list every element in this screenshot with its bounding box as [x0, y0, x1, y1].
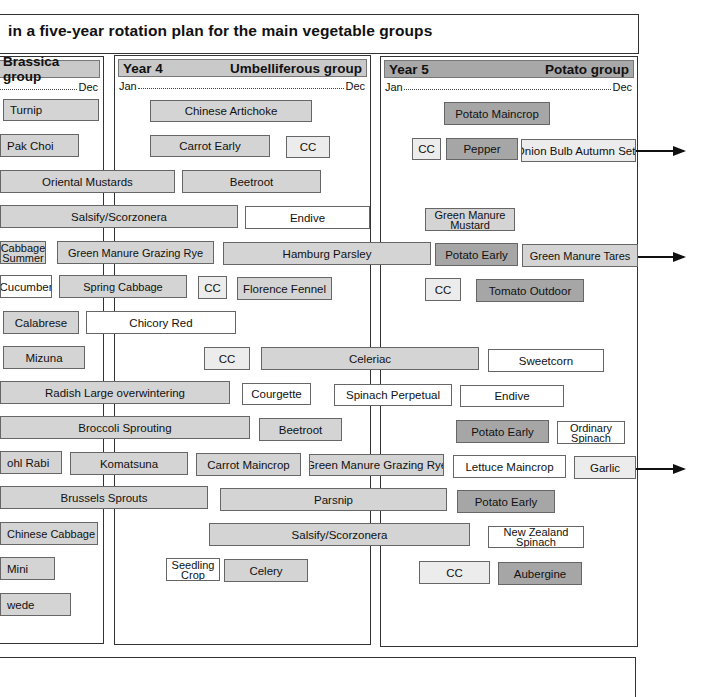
- month-axis: Dec: [0, 81, 98, 93]
- crop-label: Green Manure Tares: [530, 251, 631, 261]
- crop-bar: Potato Early: [457, 490, 555, 513]
- crop-label: Turnip: [10, 105, 42, 115]
- month-end: Dec: [612, 81, 632, 93]
- crop-bar: Endive: [460, 385, 564, 407]
- crop-label: Beetroot: [279, 425, 322, 435]
- crop-label: Florence Fennel: [243, 284, 326, 294]
- crop-bar: Beetroot: [182, 170, 321, 193]
- crop-label: CC: [446, 568, 463, 578]
- crop-label: Mini: [7, 564, 28, 574]
- crop-bar: Chinese Artichoke: [150, 100, 312, 122]
- panel-header: Year 4Umbelliferous group: [118, 59, 367, 77]
- crop-bar: Ordinary Spinach: [557, 421, 625, 444]
- crop-label: Pepper: [463, 144, 500, 154]
- crop-label: CC: [418, 144, 435, 154]
- crop-label: CC: [435, 285, 452, 295]
- crop-bar: Seedling Crop: [166, 558, 220, 581]
- arrow-right-icon: [638, 256, 684, 258]
- crop-bar: Tomato Outdoor: [476, 279, 584, 302]
- crop-label: Celery: [249, 566, 282, 576]
- panel-year: Year 5: [389, 62, 429, 77]
- month-axis: JanDec: [119, 80, 365, 92]
- crop-bar: Pepper: [446, 138, 518, 160]
- crop-bar: Oriental Mustards: [0, 170, 175, 193]
- panel-group: Brassica group: [3, 54, 95, 84]
- month-end: Dec: [345, 80, 365, 92]
- crop-label: Mizuna: [25, 353, 62, 363]
- crop-label: Beetroot: [230, 177, 273, 187]
- crop-label: ohl Rabi: [7, 458, 49, 468]
- crop-bar: Beetroot: [259, 418, 342, 441]
- crop-label: Tomato Outdoor: [489, 286, 571, 296]
- month-end: Dec: [78, 81, 98, 93]
- month-start: Jan: [385, 81, 403, 93]
- crop-bar: CC: [198, 276, 227, 299]
- crop-label: Carrot Maincrop: [207, 460, 289, 470]
- crop-bar: Aubergine: [498, 562, 582, 585]
- crop-bar: Green Manure Mustard: [425, 208, 515, 231]
- crop-bar: Florence Fennel: [237, 277, 332, 300]
- month-dots: [138, 88, 345, 89]
- crop-label: Potato Early: [475, 497, 538, 507]
- crop-bar: Celeriac: [261, 347, 479, 370]
- crop-label: Parsnip: [314, 495, 353, 505]
- crop-bar: Carrot Early: [150, 135, 270, 157]
- crop-label: Sweetcorn: [519, 356, 573, 366]
- crop-label: Potato Early: [471, 427, 534, 437]
- crop-bar: Brussels Sprouts: [0, 486, 208, 509]
- crop-bar: Chicory Red: [86, 311, 236, 334]
- crop-label: Salsify/Scorzonera: [71, 212, 167, 222]
- crop-label: Garlic: [590, 463, 620, 473]
- arrow-right-icon: [636, 468, 684, 470]
- crop-label: Green Manure Mustard: [426, 210, 514, 230]
- crop-label: Lettuce Maincrop: [465, 462, 553, 472]
- crop-label: Spring Cabbage: [83, 282, 163, 292]
- crop-label: Courgette: [251, 389, 302, 399]
- crop-bar: Green Manure Grazing Rye: [57, 241, 214, 264]
- crop-label: Seedling Crop: [167, 560, 219, 580]
- crop-bar: Endive: [245, 206, 370, 229]
- crop-label: Salsify/Scorzonera: [292, 530, 388, 540]
- crop-label: Green Manure Grazing Rye: [309, 460, 444, 470]
- crop-bar: Carrot Maincrop: [196, 453, 301, 476]
- crop-bar: Hamburg Parsley: [223, 242, 431, 265]
- crop-bar: Potato Maincrop: [444, 102, 550, 125]
- month-start: Jan: [119, 80, 137, 92]
- crop-bar: wede: [0, 593, 71, 616]
- crop-bar: Courgette: [242, 383, 311, 405]
- crop-bar: Radish Large overwintering: [0, 381, 230, 404]
- crop-bar: Onion Bulb Autumn Sets: [521, 139, 636, 162]
- diagram-title: in a five-year rotation plan for the mai…: [8, 22, 432, 40]
- crop-bar: Mizuna: [3, 346, 85, 369]
- crop-label: Aubergine: [514, 569, 566, 579]
- crop-label: Chicory Red: [129, 318, 192, 328]
- panel-group: Umbelliferous group: [230, 61, 362, 76]
- crop-bar: Cucumber: [0, 275, 52, 298]
- crop-label: Broccoli Sprouting: [78, 423, 171, 433]
- crop-bar: Garlic: [574, 456, 636, 479]
- crop-bar: CC: [286, 136, 330, 158]
- crop-bar: Pak Choi: [0, 134, 79, 157]
- crop-bar: Potato Early: [435, 243, 518, 266]
- crop-bar: Celery: [224, 559, 308, 582]
- panel-year: Year 4: [123, 61, 163, 76]
- month-dots: [404, 89, 612, 90]
- crop-bar: CC: [412, 138, 441, 160]
- arrow-right-icon: [636, 150, 684, 152]
- crop-label: Pak Choi: [7, 141, 54, 151]
- crop-label: Green Manure Grazing Rye: [68, 248, 203, 258]
- crop-label: Cucumber: [0, 282, 52, 292]
- crop-bar: Komatsuna: [70, 452, 188, 475]
- crop-label: CC: [219, 354, 236, 364]
- crop-label: Ordinary Spinach: [558, 423, 624, 443]
- crop-label: Calabrese: [15, 318, 67, 328]
- crop-bar: Salsify/Scorzonera: [209, 523, 470, 546]
- crop-label: CC: [300, 142, 317, 152]
- panel-header: Year 5Potato group: [384, 60, 634, 78]
- crop-label: CC: [204, 283, 221, 293]
- crop-bar: Turnip: [3, 99, 99, 121]
- crop-bar: New Zealand Spinach: [488, 526, 584, 548]
- crop-bar: Broccoli Sprouting: [0, 416, 250, 439]
- crop-bar: Calabrese: [3, 311, 79, 334]
- crop-bar: CC: [419, 561, 490, 584]
